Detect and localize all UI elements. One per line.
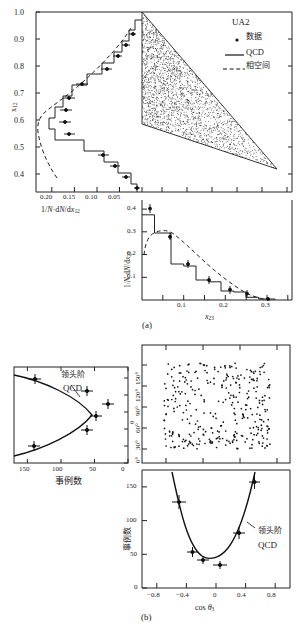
theta-tick-150: 150° [135,372,142,385]
x12-ytick-0_4: 0.4 [14,171,24,179]
x12-xaxis-title: 1/N·dN/dx12 [41,206,80,215]
psi-xtick-50: 50 [89,466,96,473]
legend-label-qcd: QCD [246,48,264,57]
x12-xtick-0_20: 0.20 [40,194,52,201]
costheta3-xtick-0_8: 0.8 [267,592,276,599]
annotation-lo-qcd-bottom-line1: 领头阶 [258,527,282,535]
x12-ytick-0_9: 0.9 [14,36,24,44]
x23-xtick-0_1: 0.1 [177,302,186,309]
legend-point-marker-icon [220,35,246,45]
caption-a: (a) [142,320,152,330]
x23-xtick-0_2: 0.2 [219,302,228,309]
legend-dashed-line-icon [220,64,246,74]
x12-ytick-0_6: 0.6 [14,117,24,125]
x12-xtick-0_15: 0.15 [63,194,75,201]
annotation-lo-qcd-left-line1: 领头阶 [61,371,85,379]
x12-ytick-0_7: 0.7 [14,90,24,98]
chart-psi-projection [14,367,128,463]
x12-ytick-1_0: 1.0 [14,9,24,17]
psi-xtick-0: 0 [121,466,125,473]
costheta3-xaxis-title: cos θ3 [195,604,214,613]
caption-b: (b) [141,612,152,622]
x23-xtick-0_3: 0.3 [261,302,270,309]
psi-xtick-150: 150 [19,466,30,473]
x12-xtick-0_10: 0.10 [85,194,97,201]
theta-tick-0: 0° [135,457,142,463]
costheta3-yaxis-title: 事例数 [124,527,132,551]
psi-xaxis-title: 事例数 [55,477,82,486]
costheta3-xtick-0: 0 [213,592,217,599]
theta-tick-60: 60° [135,423,142,433]
x12-ytick-0_8: 0.8 [14,63,24,71]
theta-axis-title: θ [129,421,136,424]
annotation-lo-qcd-left-line2: QCD [63,384,82,393]
costheta3-ytick-50: 50 [130,551,137,558]
legend-label-phase-space: 相空间 [246,62,270,70]
x23-projection-svg [142,200,292,300]
x23-ytick-0_3: 0.3 [127,228,136,235]
theta-tick-30: 30° [135,440,142,450]
psi-xtick-100: 100 [52,466,63,473]
costheta3-ytick-0: 0 [134,584,138,591]
costheta3-xtick--0_4: −0.4 [176,592,189,599]
chart-angular-scatter [142,345,290,463]
legend: UA2 数据 QCD 相空间 [220,18,292,80]
figure-root: 1.0 0.9 0.8 0.7 0.6 0.5 0.4 x12 0.20 0.1… [0,0,296,643]
x12-projection-svg [36,12,142,192]
angular-scatter-svg [142,345,290,463]
x23-ytick-0_4: 0.4 [127,205,136,212]
x23-xaxis-title: x23 [205,313,214,322]
chart-x12-projection [36,12,142,192]
legend-experiment: UA2 [232,18,250,27]
x12-axis-title: x12 [10,103,19,112]
theta-tick-90: 90° [135,406,142,416]
psi-projection-svg [14,367,128,463]
legend-label-data: 数据 [246,33,262,41]
costheta3-ytick-100: 100 [126,517,137,524]
x12-xtick-0_05: 0.05 [108,194,120,201]
costheta3-ytick-150: 150 [126,483,137,490]
legend-solid-line-icon [220,50,246,60]
annotation-lo-qcd-bottom-line2: QCD [258,541,277,550]
x12-ytick-0_5: 0.5 [14,144,24,152]
theta-tick-120: 120° [135,389,142,402]
costheta3-xtick-0_4: 0.4 [237,592,246,599]
x23-yaxis-title: 1/N·dN/dx23 [124,252,132,288]
x12-axis-title-text: x12 [9,103,18,112]
costheta3-xtick--0_8: −0.8 [147,592,160,599]
chart-x23-projection [142,200,292,300]
